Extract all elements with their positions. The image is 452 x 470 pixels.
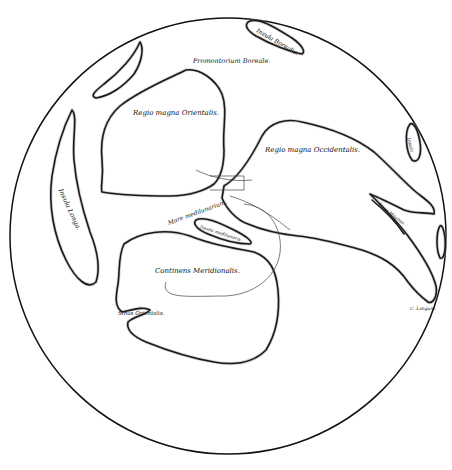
northwest-island-shape	[93, 42, 142, 98]
label-regio-occidentalis: Regio magna Occidentalis.	[265, 147, 360, 154]
lunar-map: Insula Borealis. Promontorium Boreale. R…	[0, 0, 452, 470]
label-continens-meridionalis: Continens Meridionalis.	[155, 268, 240, 275]
label-promontorium-boreale: Promontorium Boreale.	[193, 58, 270, 65]
label-cape-longum: C. Longum.	[410, 307, 436, 312]
continens-meridionalis-shape	[116, 232, 278, 364]
label-sinus-orientalis: Sinus Orientalis.	[118, 311, 164, 317]
insula-longa-shape	[51, 110, 98, 285]
label-regio-orientalis: Regio magna Orientalis.	[133, 110, 219, 117]
